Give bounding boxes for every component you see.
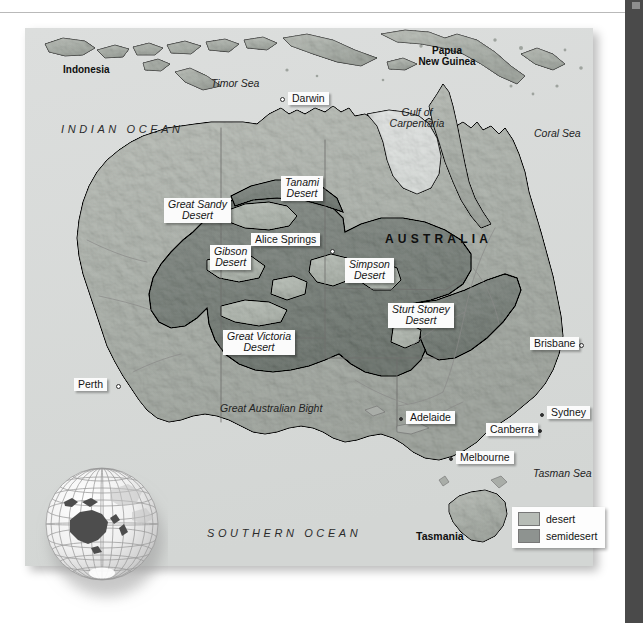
globe-locator-inset: [36, 462, 168, 612]
city-dot-sydney[interactable]: [540, 413, 544, 417]
legend-swatch-desert: [518, 512, 540, 526]
legend-label-semidesert: semidesert: [546, 530, 597, 542]
city-dot-perth[interactable]: [116, 384, 121, 389]
map-legend: desert semidesert: [512, 507, 605, 548]
legend-row-desert[interactable]: desert: [518, 512, 597, 526]
right-margin-bar: [625, 0, 643, 623]
city-dot-canberra[interactable]: [538, 429, 542, 433]
globe-graphic: [36, 462, 168, 612]
city-dot-melbourne[interactable]: [449, 457, 453, 461]
legend-label-desert: desert: [546, 513, 575, 525]
legend-swatch-semidesert: [518, 529, 540, 543]
city-dot-darwin[interactable]: [280, 97, 285, 102]
city-dot-adelaide[interactable]: [399, 417, 403, 421]
city-dot-alice-springs[interactable]: [330, 249, 335, 254]
margin-tick: [632, 2, 640, 9]
legend-row-semidesert[interactable]: semidesert: [518, 529, 597, 543]
page-root: INDIAN OCEAN SOUTHERN OCEAN Timor Sea Gu…: [0, 0, 643, 623]
city-dot-brisbane[interactable]: [579, 343, 584, 348]
top-divider: [0, 12, 625, 13]
